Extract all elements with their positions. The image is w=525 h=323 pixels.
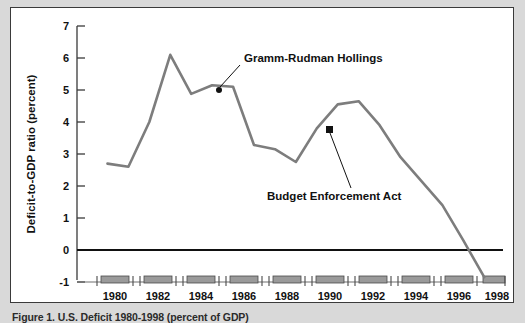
y-tick-label-2: 2 — [63, 180, 69, 192]
annotation-label-2: Budget Enforcement Act — [267, 190, 402, 202]
figure-caption-text: Figure 1. U.S. Deficit 1980-1998 (percen… — [12, 311, 492, 323]
x-tick-label-1994: 1994 — [404, 290, 429, 302]
annotation-gramm-rudman-hollings: Gramm-Rudman Hollings — [216, 52, 383, 93]
deficit-to-gdp-line-chart: 7 6 5 4 3 2 1 0 -1 Deficit-to-GDP ratio … — [11, 8, 513, 302]
x-tick-label-1992: 1992 — [361, 290, 385, 302]
x-tick-label-1980: 1980 — [103, 290, 127, 302]
y-tick-label-6: 6 — [63, 52, 69, 64]
x-tick-label-1982: 1982 — [146, 290, 170, 302]
deficit-series-line — [107, 55, 484, 277]
annotation-budget-enforcement-act: Budget Enforcement Act — [267, 126, 402, 202]
y-tick-label-7: 7 — [63, 20, 69, 32]
annotation-label-1: Gramm-Rudman Hollings — [244, 52, 383, 64]
y-axis-title: Deficit-to-GDP ratio (percent) — [25, 74, 37, 233]
y-axis-ticks — [77, 26, 85, 282]
annotation-marker-dot-1 — [216, 87, 222, 93]
x-tick-label-1998: 1998 — [485, 290, 509, 302]
annotation-leader-line-2 — [330, 133, 351, 188]
figure-page: 7 6 5 4 3 2 1 0 -1 Deficit-to-GDP ratio … — [0, 0, 525, 323]
y-tick-label-neg1: -1 — [59, 276, 69, 288]
y-tick-label-4: 4 — [63, 116, 70, 128]
y-tick-label-0: 0 — [63, 244, 69, 256]
x-tick-label-1984: 1984 — [189, 290, 214, 302]
x-tick-label-1986: 1986 — [232, 290, 256, 302]
annotation-marker-dot-2 — [326, 126, 333, 133]
y-tick-label-1: 1 — [63, 212, 69, 224]
y-tick-label-3: 3 — [63, 148, 69, 160]
x-tick-label-1990: 1990 — [318, 290, 342, 302]
figure-caption: Figure 1. U.S. Deficit 1980-1998 (percen… — [12, 311, 492, 323]
x-tick-label-1988: 1988 — [275, 290, 299, 302]
y-tick-label-5: 5 — [63, 84, 69, 96]
figure-panel: 7 6 5 4 3 2 1 0 -1 Deficit-to-GDP ratio … — [10, 7, 514, 303]
annotation-leader-line-1 — [220, 65, 240, 87]
x-tick-label-1996: 1996 — [447, 290, 471, 302]
